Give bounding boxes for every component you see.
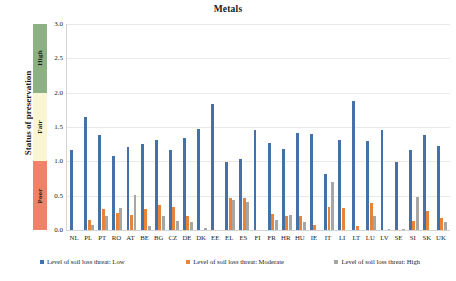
bar-group-sk [421, 24, 435, 230]
legend-label: Level of soil loss threat: Moderate [193, 258, 284, 265]
status-band-segment-high: High [33, 24, 47, 93]
bar-group-es [237, 24, 251, 230]
x-tick-label-se: SE [392, 234, 406, 241]
bar-group-fr [266, 24, 280, 230]
y-tick-label: 3.0 [54, 20, 63, 28]
y-tick-label: 1.5 [54, 123, 63, 131]
bar-uk-high [444, 222, 447, 230]
bar-pl-mod [88, 220, 91, 230]
bar-group-lv [378, 24, 392, 230]
x-tick-label-ro: RO [109, 234, 123, 241]
bar-be-high [148, 226, 151, 230]
bar-si-high [416, 197, 419, 230]
legend-item-high[interactable]: Level of soil loss threat: High [334, 258, 420, 265]
legend-item-low[interactable]: Level of soil loss threat: Low [40, 258, 186, 265]
x-tick-label-el: EL [222, 234, 236, 241]
bar-lu-high [373, 216, 376, 230]
metals-bar-chart: Metals Status of preservation HighFairPo… [0, 0, 456, 281]
bar-group-fi [251, 24, 265, 230]
x-tick-label-fr: FR [265, 234, 279, 241]
x-tick-label-at: AT [123, 234, 137, 241]
chart-legend: Level of soil loss threat: LowLevel of s… [40, 258, 420, 265]
bar-de-mod [186, 216, 189, 230]
bar-sk-mod [426, 211, 429, 230]
bar-li-mod [342, 208, 345, 230]
bar-hr-high [289, 215, 292, 230]
bar-uk-mod [440, 218, 443, 230]
x-tick-label-dk: DK [194, 234, 208, 241]
bar-uk-low [437, 146, 440, 230]
bar-se-low [395, 162, 398, 230]
bar-group-pt [96, 24, 110, 230]
bars-layer [67, 24, 450, 230]
bar-group-uk [435, 24, 449, 230]
status-band-label: Fair [36, 120, 44, 134]
chart-title: Metals [0, 4, 456, 14]
bar-it-low [324, 174, 327, 230]
bar-group-se [393, 24, 407, 230]
bar-cz-high [176, 221, 179, 230]
bar-group-dk [195, 24, 209, 230]
bar-lu-low [366, 141, 369, 230]
bar-pt-high [105, 216, 108, 230]
bar-group-li [336, 24, 350, 230]
bar-it-high [331, 182, 334, 230]
legend-item-mod[interactable]: Level of soil loss threat: Moderate [186, 258, 334, 265]
bar-pl-low [84, 117, 87, 230]
bar-es-low [239, 159, 242, 230]
x-tick-label-fi: FI [250, 234, 264, 241]
y-tick-label: 0.0 [54, 226, 63, 234]
bar-group-ee [209, 24, 223, 230]
bar-pt-mod [102, 209, 105, 230]
bar-group-el [223, 24, 237, 230]
y-tick-label: 2.0 [54, 89, 63, 97]
bar-nl-low [70, 150, 73, 230]
bar-group-nl [68, 24, 82, 230]
bar-group-ie [308, 24, 322, 230]
bar-lu-mod [370, 203, 373, 230]
y-tick-label: 2.5 [54, 54, 63, 62]
bar-group-hr [280, 24, 294, 230]
bar-pl-high [91, 225, 94, 230]
bar-lt-low [352, 101, 355, 230]
bar-bg-high [162, 216, 165, 230]
bar-fr-low [268, 143, 271, 230]
y-axis-title: Status of preservation [23, 38, 33, 188]
bar-ie-low [310, 134, 313, 230]
status-band-label: High [36, 51, 44, 67]
bar-lv-low [381, 130, 384, 230]
bar-group-lt [350, 24, 364, 230]
bar-ro-high [119, 208, 122, 230]
bar-group-cz [167, 24, 181, 230]
legend-swatch-low-icon [40, 260, 44, 264]
status-of-preservation-band: HighFairPoor [33, 24, 47, 230]
bar-el-mod [229, 198, 232, 230]
bar-fr-high [275, 220, 278, 230]
x-tick-label-be: BE [138, 234, 152, 241]
bar-si-mod [412, 221, 415, 230]
bar-pt-low [98, 135, 101, 230]
x-tick-label-ee: EE [208, 234, 222, 241]
bar-group-hu [294, 24, 308, 230]
bar-fi-low [254, 130, 257, 230]
bar-at-low [127, 147, 130, 230]
bar-cz-mod [172, 207, 175, 230]
bar-lt-mod [356, 226, 359, 230]
x-tick-label-es: ES [236, 234, 250, 241]
bar-bg-mod [158, 205, 161, 230]
bar-group-de [181, 24, 195, 230]
bar-dk-high [204, 228, 207, 230]
bar-cz-low [169, 150, 172, 230]
x-tick-label-bg: BG [152, 234, 166, 241]
bar-li-low [338, 140, 341, 230]
bar-lv-high [388, 229, 391, 230]
bar-group-bg [153, 24, 167, 230]
x-tick-label-li: LI [335, 234, 349, 241]
x-tick-label-hr: HR [279, 234, 293, 241]
x-tick-label-cz: CZ [166, 234, 180, 241]
status-band-segment-poor: Poor [33, 161, 47, 230]
x-tick-label-pt: PT [95, 234, 109, 241]
bar-hr-mod [285, 216, 288, 230]
bar-group-lu [364, 24, 378, 230]
status-band-label: Poor [36, 188, 44, 203]
